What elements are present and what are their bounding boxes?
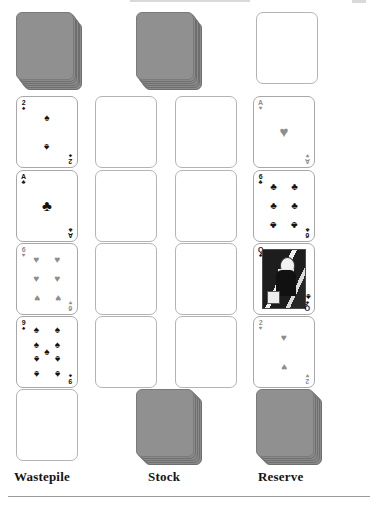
footer-divider <box>8 496 370 497</box>
card-corner-bottom-right: A ♣ <box>66 227 75 239</box>
reserve-top-empty-slot[interactable] <box>256 12 318 84</box>
stock-bottom-stack[interactable] <box>136 389 198 461</box>
card-face: 9 ♠ ♠ ♠ ♠ ♠ ♠ ♠ ♠ ♠ ♠ 9 ♠ <box>16 316 78 388</box>
card-rank: A <box>66 232 75 239</box>
wastepile-bottom-empty-slot[interactable] <box>16 389 78 461</box>
tableau-card-c1r4[interactable]: 9 ♠ ♠ ♠ ♠ ♠ ♠ ♠ ♠ ♠ ♠ 9 ♠ <box>16 316 78 388</box>
card-pips: ♥ <box>263 103 305 161</box>
pip-icon: ♥ <box>34 293 40 303</box>
card-face: A ♥ ♥ A ♥ <box>253 96 315 168</box>
card-corner-bottom-right: 6 ♥ <box>66 300 75 312</box>
card-back-top <box>16 12 74 80</box>
solitaire-board: 2 ♠ ♠ ♠ 2 ♠ A ♥ ♥ <box>0 0 378 506</box>
card-rank: 2 <box>66 158 75 165</box>
tableau-card-c1r3[interactable]: 6 ♥ ♥ ♥ ♥ ♥ ♥ ♥ 6 ♥ <box>16 243 78 315</box>
top-edge-speck <box>352 0 366 3</box>
tableau-card-c4r2[interactable]: 6 ♣ ♣ ♣ ♣ ♣ ♣ ♣ 6 ♣ <box>253 170 315 242</box>
pip-icon: ♠ <box>44 347 49 357</box>
tableau-card-c1r2[interactable]: A ♣ ♣ A ♣ <box>16 170 78 242</box>
card-rank: A <box>303 158 312 165</box>
tableau-empty-c2r4[interactable] <box>95 316 157 388</box>
empty-card-outline <box>256 12 318 84</box>
pip-icon: ♥ <box>55 274 61 284</box>
card-face: 6 ♣ ♣ ♣ ♣ ♣ ♣ ♣ 6 ♣ <box>253 170 315 242</box>
card-rank: Q <box>303 305 312 312</box>
stock-top-stack[interactable] <box>136 12 198 84</box>
card-pips: ♠ ♠ <box>26 103 68 161</box>
label-stock: Stock <box>148 469 180 485</box>
card-back-top <box>256 389 314 457</box>
pip-icon: ♠ <box>44 142 49 152</box>
wastepile-top-stack[interactable] <box>16 12 78 84</box>
pip-icon: ♣ <box>270 201 277 211</box>
empty-card-outline <box>175 170 237 242</box>
empty-card-outline <box>175 316 237 388</box>
card-face: A ♣ ♣ A ♣ <box>16 170 78 242</box>
card-pips: ♣ ♣ ♣ ♣ ♣ ♣ <box>263 177 305 235</box>
court-emblem <box>267 291 280 304</box>
card-face: 2 ♠ ♠ ♠ 2 ♠ <box>16 96 78 168</box>
tableau-empty-c3r3[interactable] <box>175 243 237 315</box>
card-suit-icon: ♥ <box>303 373 312 379</box>
tableau-empty-c3r4[interactable] <box>175 316 237 388</box>
empty-card-outline <box>95 243 157 315</box>
card-suit-icon: ♣ <box>303 227 312 233</box>
tableau-card-c4r1[interactable]: A ♥ ♥ A ♥ <box>253 96 315 168</box>
pip-icon: ♣ <box>291 201 298 211</box>
card-suit-icon: ♠ <box>66 373 75 379</box>
card-face: Q ♠ ♠ Q ♠ <box>253 243 315 315</box>
pip-icon: ♣ <box>270 182 277 192</box>
pip-icon: ♣ <box>291 220 298 230</box>
tableau-card-c1r1[interactable]: 2 ♠ ♠ ♠ 2 ♠ <box>16 96 78 168</box>
card-back-top <box>136 389 194 457</box>
card-pips: ♥ ♥ ♥ ♥ ♥ ♥ <box>26 250 68 308</box>
pip-icon: ♥ <box>55 293 61 303</box>
top-edge-speck <box>130 0 250 2</box>
card-face: 2 ♥ ♥ ♥ 2 ♥ <box>253 316 315 388</box>
tableau-empty-c2r3[interactable] <box>95 243 157 315</box>
tableau-empty-c2r1[interactable] <box>95 96 157 168</box>
card-corner-bottom-right: 9 ♠ <box>66 373 75 385</box>
reserve-bottom-stack[interactable] <box>256 389 318 461</box>
empty-card-outline <box>175 96 237 168</box>
card-pips: ♣ <box>26 177 68 235</box>
card-corner-bottom-right: 2 ♠ <box>66 153 75 165</box>
tableau-card-c4r4[interactable]: 2 ♥ ♥ ♥ 2 ♥ <box>253 316 315 388</box>
pip-icon: ♥ <box>281 362 287 372</box>
pip-icon: ♣ <box>270 220 277 230</box>
tableau-empty-c3r1[interactable] <box>175 96 237 168</box>
tableau-empty-c2r2[interactable] <box>95 170 157 242</box>
label-wastepile: Wastepile <box>14 469 70 485</box>
pip-icon: ♣ <box>291 182 298 192</box>
card-corner-bottom-right: Q ♠ <box>303 300 312 312</box>
pip-icon: ♥ <box>34 274 40 284</box>
pip-icon: ♠ <box>55 340 60 350</box>
card-rank: 2 <box>303 378 312 385</box>
pip-icon: ♠ <box>44 113 49 123</box>
card-rank: 6 <box>303 232 312 239</box>
pip-icon: ♥ <box>281 333 287 343</box>
empty-card-outline <box>175 243 237 315</box>
pip-icon: ♠ <box>55 369 60 379</box>
pip-icon: ♠ <box>34 340 39 350</box>
court-card-illustration <box>262 249 306 309</box>
tableau-empty-c3r2[interactable] <box>175 170 237 242</box>
pip-icon: ♠ <box>34 369 39 379</box>
card-face: 6 ♥ ♥ ♥ ♥ ♥ ♥ ♥ 6 ♥ <box>16 243 78 315</box>
pip-icon: ♠ <box>55 354 60 364</box>
pip-icon: ♥ <box>280 125 289 140</box>
card-corner-bottom-right: 2 ♥ <box>303 373 312 385</box>
empty-card-outline <box>95 96 157 168</box>
empty-card-outline <box>95 316 157 388</box>
card-pips: ♠ ♠ ♠ ♠ ♠ ♠ ♠ ♠ ♠ <box>26 323 68 381</box>
pip-icon: ♠ <box>34 354 39 364</box>
empty-card-outline <box>95 170 157 242</box>
card-suit-icon: ♥ <box>66 300 75 306</box>
card-corner-bottom-right: 6 ♣ <box>303 227 312 239</box>
card-rank: 9 <box>66 378 75 385</box>
label-reserve: Reserve <box>258 469 303 485</box>
tableau-card-c4r3[interactable]: Q ♠ ♠ Q ♠ <box>253 243 315 315</box>
empty-card-outline <box>16 389 78 461</box>
pip-icon: ♥ <box>34 255 40 265</box>
card-back-top <box>136 12 194 80</box>
